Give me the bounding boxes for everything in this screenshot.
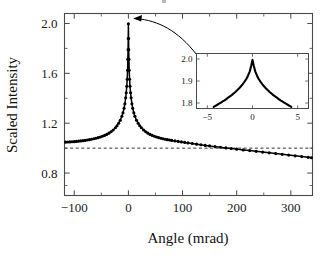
data-point xyxy=(131,107,134,110)
data-point xyxy=(130,96,133,99)
data-point xyxy=(127,37,130,40)
inset-x-ticklabel: 0 xyxy=(250,112,255,122)
x-ticklabel: −100 xyxy=(61,200,88,215)
data-point xyxy=(195,143,198,146)
data-point xyxy=(261,151,264,154)
data-point xyxy=(123,102,126,105)
x-ticklabel: 300 xyxy=(281,200,301,215)
data-point xyxy=(224,146,227,149)
x-ticklabel: 100 xyxy=(173,200,193,215)
data-point xyxy=(307,156,310,159)
data-point xyxy=(300,155,303,158)
data-point xyxy=(140,126,143,129)
data-point xyxy=(180,140,183,143)
inset-y-ticklabel: 1.8 xyxy=(181,98,193,108)
data-point xyxy=(129,91,132,94)
data-point xyxy=(132,111,135,114)
y-ticklabel: 1.6 xyxy=(41,66,58,81)
data-point xyxy=(112,128,115,131)
data-point xyxy=(125,91,128,94)
data-point xyxy=(208,144,211,147)
y-ticklabel: 1.2 xyxy=(41,116,57,131)
y-ticklabel: 0.8 xyxy=(41,166,57,181)
y-ticklabel: 2.0 xyxy=(41,16,57,31)
data-point xyxy=(133,115,136,118)
inset-x-ticklabel: 5 xyxy=(295,112,300,122)
data-point xyxy=(287,154,290,157)
data-point xyxy=(135,119,138,122)
data-point xyxy=(191,142,194,145)
data-point xyxy=(242,148,245,151)
data-point xyxy=(268,151,271,154)
data-point xyxy=(219,146,222,149)
data-point xyxy=(186,141,189,144)
data-point xyxy=(281,153,284,156)
x-axis-title: Angle (mrad) xyxy=(147,230,228,247)
data-point xyxy=(117,122,120,125)
inset-x-ticklabel: −5 xyxy=(203,112,213,122)
page-crop-artifact xyxy=(162,0,166,3)
data-point xyxy=(121,111,124,114)
data-point xyxy=(170,139,173,142)
data-point xyxy=(127,22,130,25)
data-point xyxy=(120,115,123,118)
figure-root: −1000100200300 2.01.61.20.8 −505 2.01.91… xyxy=(0,0,329,256)
data-point xyxy=(255,150,258,153)
data-point xyxy=(173,139,176,142)
x-ticklabel: 0 xyxy=(125,200,132,215)
data-point xyxy=(123,107,126,110)
inset-y-ticklabel: 2.0 xyxy=(181,54,193,64)
data-point xyxy=(177,140,180,143)
x-ticklabel: 200 xyxy=(227,200,247,215)
data-point xyxy=(128,78,131,81)
data-point xyxy=(230,147,233,150)
y-axis-title: Scaled Intensity xyxy=(4,56,20,153)
data-point xyxy=(119,119,122,122)
data-point xyxy=(235,148,238,151)
data-point xyxy=(294,154,297,157)
data-point xyxy=(204,144,207,147)
data-point xyxy=(310,156,313,159)
data-point xyxy=(183,141,186,144)
scaled-intensity-plot: −1000100200300 2.01.61.20.8 −505 2.01.91… xyxy=(0,0,329,256)
data-point xyxy=(128,69,131,72)
data-point xyxy=(130,102,133,105)
data-point xyxy=(128,85,131,88)
data-point xyxy=(213,145,216,148)
inset-y-ticklabel: 1.9 xyxy=(181,76,193,86)
data-point xyxy=(127,48,130,51)
data-point xyxy=(248,149,251,152)
data-point xyxy=(127,58,130,61)
data-point xyxy=(125,85,128,88)
data-point xyxy=(274,152,277,155)
data-point xyxy=(199,143,202,146)
inset-y-ticklabels: 2.01.91.8 xyxy=(181,54,193,108)
data-point xyxy=(124,96,127,99)
